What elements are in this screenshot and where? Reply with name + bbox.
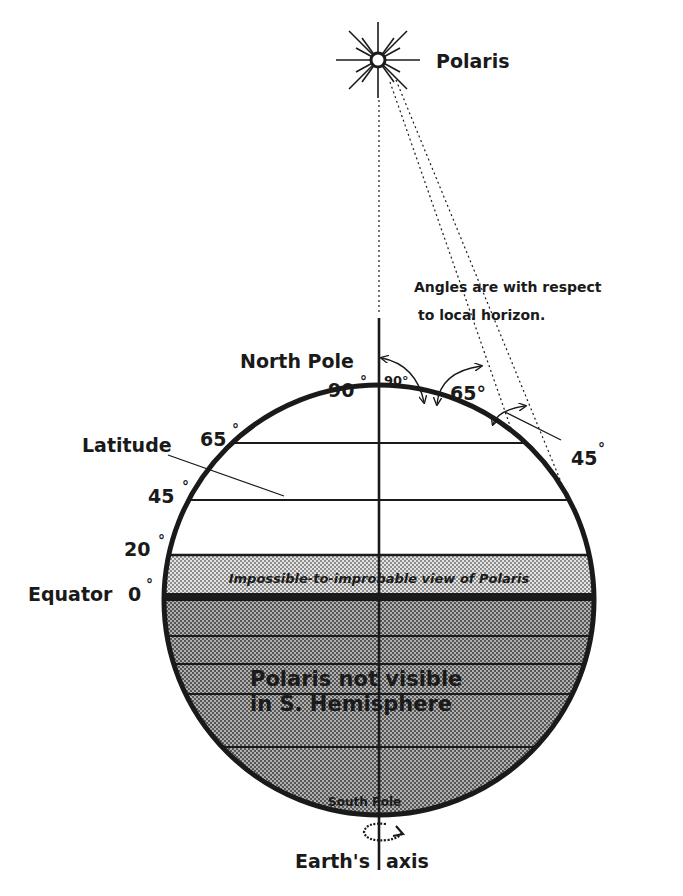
latitude-0-degree: ° [146,576,153,592]
angle-65-label: 65° [450,382,486,404]
angle-45-degree: ° [598,440,605,456]
angle-note-line1: Angles are with respect [414,279,602,295]
earths-axis-label-right: axis [386,850,429,872]
latitude-20-degree: ° [158,532,165,548]
latitude-90-degree: ° [360,373,367,389]
latitude-45-degree: ° [182,478,189,494]
rotation-arrow-icon [364,824,403,841]
polaris-latitude-diagram: Polaris Angles are with respect to local… [0,0,683,896]
southern-hemisphere-label-line2: in S. Hemisphere [250,692,452,716]
latitude-65-value: 65 [200,428,226,450]
improbable-view-label: Impossible-to-improbable view of Polaris [229,571,530,586]
north-pole-label: North Pole [240,350,354,372]
latitude-20-value: 20 [124,538,150,560]
latitude-0-value: 0 [128,583,141,605]
angle-45-label: 45 [571,447,597,469]
angle-note-line2: to local horizon. [418,307,545,323]
equator-label: Equator [28,583,113,605]
latitude-45-value: 45 [148,485,174,507]
earths-axis-label-left: Earth's [295,850,370,872]
polaris-label: Polaris [436,50,510,72]
south-pole-label-left: South Pole [328,795,401,809]
angle-90-label: 90° [384,373,409,388]
polaris-star-icon [336,22,420,98]
southern-hemisphere-label-line1: Polaris not visible [250,667,462,691]
latitude-label: Latitude [82,434,172,456]
latitude-65-degree: ° [232,421,239,437]
latitude-90-value: 90 [328,379,354,401]
south-pole-text: South Pole [328,795,401,809]
